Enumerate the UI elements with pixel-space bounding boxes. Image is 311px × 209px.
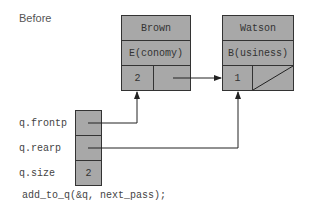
null-slash-icon [253,66,293,90]
pointer-arrows [0,0,311,209]
arrow-rearp-to-watson [88,92,238,148]
arrow-frontp-to-brown [88,92,137,123]
